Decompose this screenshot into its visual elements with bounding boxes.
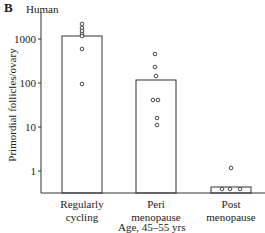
x-category-regularly-cycling: Regularly cycling xyxy=(47,198,117,224)
bar-0 xyxy=(62,36,102,193)
y-tick-100: 100 xyxy=(6,77,36,89)
data-point xyxy=(80,47,84,51)
y-tick-1: 1 xyxy=(6,165,36,177)
data-point xyxy=(154,74,158,78)
data-point xyxy=(153,52,157,56)
category-line: cycling xyxy=(47,211,117,224)
data-point xyxy=(80,22,84,26)
x-axis-label: Age, 45–55 yrs xyxy=(118,221,186,233)
y-tick-1000: 1000 xyxy=(6,33,36,45)
category-line: Post xyxy=(196,198,265,211)
panel-label: B xyxy=(4,2,13,14)
chart-subtitle: Human xyxy=(26,3,58,15)
data-point xyxy=(153,65,157,69)
data-point xyxy=(220,187,224,191)
data-point xyxy=(155,116,159,120)
category-line: menopause xyxy=(196,211,265,224)
y-axis-label: Primordial follicles/ovary xyxy=(6,48,18,161)
data-point xyxy=(80,82,84,86)
data-point xyxy=(228,187,232,191)
category-line: Regularly xyxy=(47,198,117,211)
data-point xyxy=(238,187,242,191)
data-point xyxy=(155,123,159,127)
data-point xyxy=(229,166,233,170)
data-point xyxy=(151,98,155,102)
data-point xyxy=(156,98,160,102)
data-point xyxy=(80,34,84,38)
x-category-post-menopause: Post menopause xyxy=(196,198,265,224)
category-line: Peri xyxy=(121,198,191,211)
y-tick-10: 10 xyxy=(6,121,36,133)
bar-1 xyxy=(136,80,176,193)
